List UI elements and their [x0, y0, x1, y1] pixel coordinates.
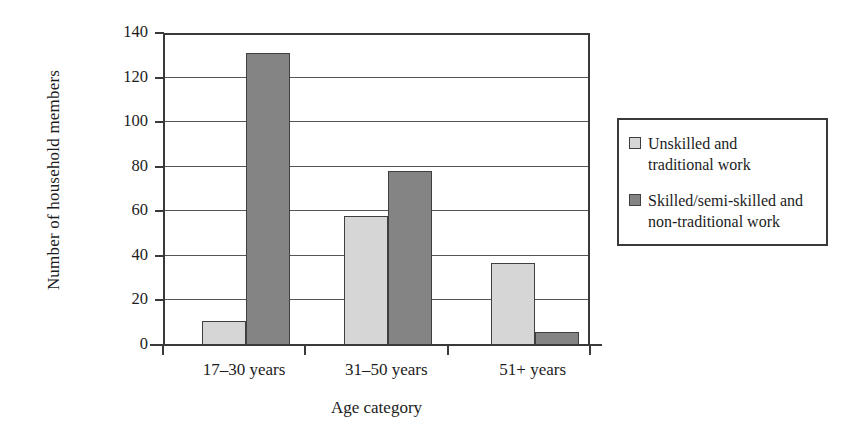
x-axis-tick-mark	[162, 346, 164, 355]
legend-label-line: non-traditional work	[648, 211, 803, 232]
plot-area	[163, 33, 590, 345]
legend-label-line: Unskilled and	[648, 133, 751, 154]
x-axis-tick-mark	[589, 346, 591, 355]
gridline	[165, 166, 588, 167]
legend-item-label: Skilled/semi-skilled andnon-traditional …	[648, 190, 803, 232]
x-axis-title: Age category	[163, 398, 590, 418]
x-axis-tick-mark	[304, 346, 306, 355]
y-axis-tick-mark	[155, 299, 164, 301]
y-axis-tick-label: 20	[102, 291, 148, 308]
bar	[535, 332, 579, 345]
x-axis-category-label: 31–50 years	[306, 360, 466, 380]
y-axis-tick-label: 140	[102, 24, 148, 41]
x-axis-category-label: 17–30 years	[164, 360, 324, 380]
bar	[491, 263, 535, 345]
y-axis-tick-label: 120	[102, 69, 148, 86]
x-axis-tick-mark	[447, 346, 449, 355]
legend-item-label: Unskilled andtraditional work	[648, 133, 751, 175]
y-axis-tick-mark	[155, 255, 164, 257]
bar	[246, 53, 290, 345]
y-axis-tick-mark	[155, 166, 164, 168]
y-axis-tick-mark	[155, 77, 164, 79]
bar	[388, 171, 432, 345]
legend: Unskilled andtraditional workSkilled/sem…	[617, 118, 828, 246]
y-axis-tick-label: 40	[102, 247, 148, 264]
bar	[344, 216, 388, 345]
x-axis-category-label: 51+ years	[453, 360, 613, 380]
legend-label-line: traditional work	[648, 154, 751, 175]
y-axis-tick-mark	[155, 210, 164, 212]
gridline	[165, 77, 588, 78]
legend-item[interactable]: Unskilled andtraditional work	[629, 133, 818, 175]
legend-label-line: Skilled/semi-skilled and	[648, 190, 803, 211]
y-axis-tick-label: 60	[102, 202, 148, 219]
y-axis-tick-label: 80	[102, 158, 148, 175]
bar-chart-figure: Number of household members 020406080100…	[0, 0, 859, 438]
legend-item[interactable]: Skilled/semi-skilled andnon-traditional …	[629, 190, 818, 232]
legend-swatch-dark	[629, 194, 641, 206]
x-axis-line	[150, 344, 602, 346]
legend-swatch-light	[629, 137, 641, 149]
bar	[202, 321, 246, 346]
y-axis-tick-mark	[155, 121, 164, 123]
y-axis-tick-label: 0	[102, 336, 148, 353]
y-axis-title: Number of household members	[44, 30, 64, 330]
y-axis-tick-mark	[155, 32, 164, 34]
y-axis-tick-labels: 020406080100120140	[100, 0, 148, 438]
gridline	[165, 121, 588, 122]
y-axis-tick-label: 100	[102, 113, 148, 130]
gridline	[165, 210, 588, 211]
